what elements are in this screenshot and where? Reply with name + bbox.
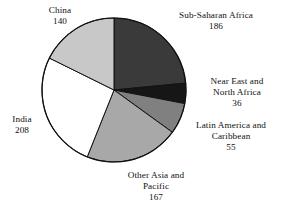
slice-value: 140: [22, 16, 98, 27]
slice-label-line1: India: [0, 114, 44, 125]
slice-value: 167: [104, 192, 208, 203]
slice-label-line1: China: [22, 5, 98, 16]
slice-label-latin-america-caribbean: Latin America and Caribbean 55: [180, 120, 282, 154]
slice-label-near-east-north-africa: Near East and North Africa 36: [192, 76, 282, 110]
slice-label-sub-saharan-africa: Sub-Saharan Africa 186: [152, 10, 280, 32]
slice-label-line1: Latin America and: [180, 120, 282, 131]
slice-value: 36: [192, 98, 282, 109]
pie-slices-group: [42, 18, 186, 162]
slice-label-line2: Pacific: [104, 181, 208, 192]
slice-value: 55: [180, 142, 282, 153]
slice-label-line1: Other Asia and: [104, 170, 208, 181]
slice-label-other-asia-pacific: Other Asia and Pacific 167: [104, 170, 208, 204]
slice-label-line1: Near East and: [192, 76, 282, 87]
slice-label-line2: North Africa: [192, 87, 282, 98]
pie-chart-figure: Sub-Saharan Africa 186 Near East and Nor…: [0, 0, 282, 210]
slice-value: 186: [152, 21, 280, 32]
slice-label-india: India 208: [0, 114, 44, 136]
slice-label-line2: Caribbean: [180, 131, 282, 142]
slice-label-china: China 140: [22, 5, 98, 27]
slice-value: 208: [0, 125, 44, 136]
slice-label-line1: Sub-Saharan Africa: [152, 10, 280, 21]
